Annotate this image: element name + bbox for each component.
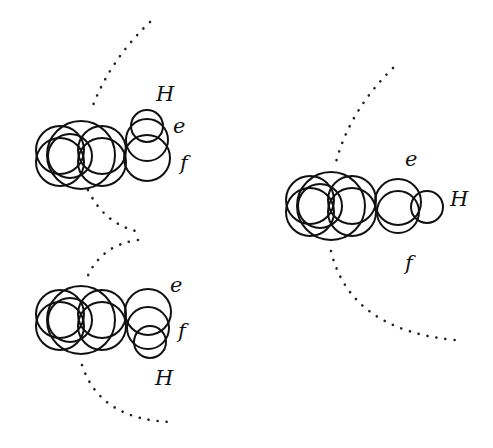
atom-h — [411, 191, 443, 223]
label-f: f — [176, 319, 189, 343]
molecule-right: e H f — [286, 68, 469, 340]
atom-ring — [286, 188, 334, 236]
dotted-boundary-right-upper — [336, 68, 393, 162]
atom-ring — [78, 290, 126, 338]
atom-ring-e — [125, 289, 171, 335]
label-e: e — [170, 273, 182, 297]
atom-ring — [328, 188, 376, 236]
atom-ring — [78, 126, 126, 174]
label-e: e — [173, 114, 185, 138]
atom-ring — [286, 176, 334, 224]
molecule-bottom-left: e f H — [36, 240, 189, 422]
dotted-boundary-top-left-lower — [88, 190, 140, 232]
atom-h — [131, 110, 163, 142]
label-h: H — [154, 366, 174, 390]
atom-ring — [36, 302, 84, 350]
molecule-top-left: H e f — [36, 22, 191, 232]
dotted-boundary-right-lower — [331, 251, 455, 340]
atom-ring — [36, 126, 84, 174]
atom-ring-e — [375, 179, 421, 225]
dotted-boundary-bottom-left-upper — [86, 240, 138, 280]
atom-h — [134, 326, 166, 358]
atom-ring — [328, 176, 376, 224]
dotted-boundary-top-left-upper — [92, 22, 150, 108]
label-f: f — [178, 151, 191, 175]
atom-core-large — [47, 286, 115, 354]
label-h: H — [155, 82, 175, 106]
atom-ring — [36, 138, 84, 186]
atom-ring — [36, 290, 84, 338]
atom-core-large — [297, 172, 365, 240]
diagram-canvas: H e f e f H e H f — [0, 0, 493, 448]
atom-ring — [78, 138, 126, 186]
label-f: f — [403, 251, 416, 275]
atom-ring — [78, 302, 126, 350]
label-h: H — [449, 187, 469, 211]
label-e: e — [405, 147, 417, 171]
atom-core-large — [47, 121, 115, 189]
